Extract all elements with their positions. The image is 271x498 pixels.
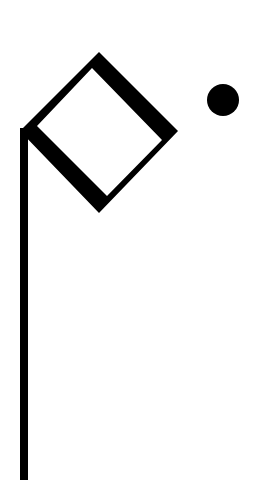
diamond-flag-icon xyxy=(20,52,178,213)
pictogram-canvas xyxy=(0,0,271,498)
dot-icon xyxy=(207,84,239,116)
flag-pole xyxy=(20,128,28,480)
flag-symbol xyxy=(0,0,271,498)
